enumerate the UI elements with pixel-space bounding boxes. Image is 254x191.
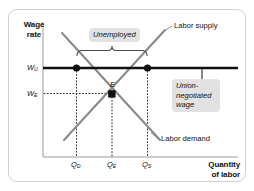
y-tick-label-wu: WU bbox=[27, 63, 38, 72]
y-tick-wu-sub: U bbox=[34, 66, 38, 72]
labor-supply-label-leader bbox=[164, 26, 172, 31]
y-tick-we-sub: E bbox=[34, 92, 37, 98]
union-wage-callout-line3: wage bbox=[176, 100, 194, 109]
x-tick-qd-sub: D bbox=[77, 163, 81, 169]
x-axis-label-line2: of labor bbox=[211, 170, 240, 179]
marker-labor-demanded-at-union-wage bbox=[73, 64, 80, 71]
union-wage-callout-line1: Union- bbox=[176, 81, 198, 90]
labor-supply-label: Labor supply bbox=[174, 21, 217, 30]
x-tick-qs-base: Q bbox=[142, 160, 148, 169]
labor-demand-label: Labor demand bbox=[161, 134, 210, 143]
y-tick-label-we: WE bbox=[27, 89, 38, 98]
x-axis-label-line1: Quantity bbox=[208, 160, 240, 169]
x-tick-qe-sub: E bbox=[113, 163, 116, 169]
y-axis-label: Wage rate bbox=[16, 20, 52, 39]
union-wage-callout: Union- negotiated wage bbox=[172, 79, 220, 112]
equilibrium-point-label: E bbox=[110, 80, 115, 89]
union-wage-callout-line2: negotiated bbox=[176, 91, 211, 100]
unemployed-callout: Unemployed bbox=[89, 28, 140, 42]
marker-equilibrium-point bbox=[108, 90, 115, 97]
x-tick-qd-base: Q bbox=[71, 160, 77, 169]
x-tick-qe-base: Q bbox=[107, 160, 113, 169]
x-tick-qs-sub: S bbox=[148, 163, 151, 169]
x-tick-label-qe: QE bbox=[107, 160, 116, 169]
x-tick-label-qd: QD bbox=[71, 160, 81, 169]
unemployed-brace bbox=[77, 46, 147, 56]
x-tick-label-qs: QS bbox=[142, 160, 151, 169]
figure-container: Wage rate Quantity of labor WU WE QD QE … bbox=[0, 0, 254, 191]
x-axis-label: Quantity of labor bbox=[178, 160, 240, 179]
marker-labor-supplied-at-union-wage bbox=[144, 64, 151, 71]
